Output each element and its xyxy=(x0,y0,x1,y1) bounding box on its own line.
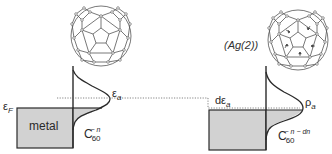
adsorbate-level-label: εa xyxy=(112,88,121,99)
right-molecule-label: C60− n − dn xyxy=(278,130,310,142)
metal-label: metal xyxy=(29,120,58,132)
site-label: (Ag(2)) xyxy=(224,40,258,51)
fermi-level-label: εF xyxy=(3,101,13,112)
level-shift-label: dεa xyxy=(215,95,230,106)
right-metal-block xyxy=(209,110,266,150)
left-molecule-label: C60− n xyxy=(84,128,101,140)
left-dos-curve xyxy=(73,70,110,130)
density-label: ρa xyxy=(305,97,316,108)
